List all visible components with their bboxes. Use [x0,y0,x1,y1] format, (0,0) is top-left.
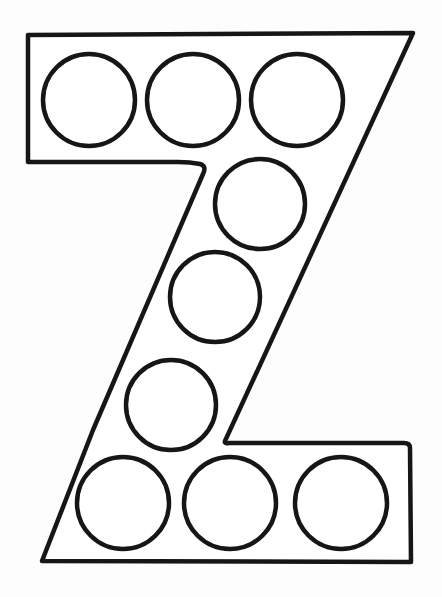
dot-circle-2[interactable] [147,54,239,146]
dot-circle-9[interactable] [295,457,387,549]
dot-marker-worksheet [0,0,442,597]
dot-circle-3[interactable] [251,54,343,146]
dot-circle-6[interactable] [126,360,216,450]
dot-circle-1[interactable] [43,54,135,146]
dot-circle-8[interactable] [184,457,276,549]
dot-circles [43,54,387,549]
dot-circle-7[interactable] [77,457,169,549]
dot-circle-4[interactable] [215,159,305,249]
dot-circle-5[interactable] [170,252,260,342]
letter-z-drawing [0,0,442,597]
